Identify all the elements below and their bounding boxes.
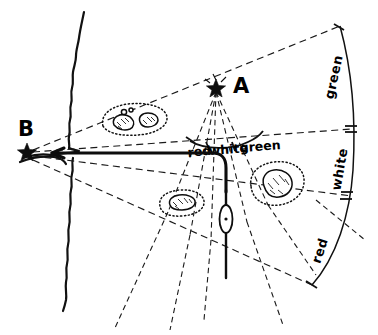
arc-end-cap-top: [334, 24, 344, 30]
islet-nw-rock-1: [121, 109, 126, 114]
station-a-label: A: [233, 74, 250, 98]
coastline-group: [20, 12, 84, 311]
bearing-b-to-green-top: [33, 26, 340, 150]
far-arc-labels: green white red: [309, 54, 351, 265]
bearing-extensions: [114, 200, 365, 330]
bearing-lines-from-a: [168, 92, 268, 240]
vessel-track: [52, 153, 226, 192]
ray-a-1: [213, 74, 216, 80]
chart-canvas: green white red red white green: [0, 0, 378, 335]
islet-nw-right: [139, 113, 158, 127]
station-b-label: B: [18, 117, 34, 141]
bearing-ext-center: [204, 240, 211, 320]
bearing-ext-right-1: [247, 222, 283, 325]
arc-label-green: green: [322, 54, 346, 101]
nautical-chart-figure: green white red red white green: [0, 0, 378, 335]
islet-group-east: [251, 162, 304, 206]
bearing-ext-left-2: [170, 235, 190, 330]
bearing-ext-right-2: [268, 205, 316, 275]
arc-label-red: red: [309, 236, 331, 265]
coastline-lower: [63, 158, 73, 311]
buoy-group: [220, 190, 233, 278]
islet-nw-rock-2: [129, 108, 133, 112]
station-a-group: A: [205, 74, 250, 98]
islet-group-northwest: [103, 103, 167, 135]
near-sector-labels: red white green: [187, 137, 281, 160]
buoy-center-dot: [224, 217, 227, 220]
sector-label-green: green: [239, 137, 281, 155]
ray-a-2: [221, 77, 226, 82]
bearing-ext-left-1: [114, 212, 168, 330]
arc-label-white: white: [328, 147, 350, 192]
coastline-upper: [69, 12, 84, 148]
islet-nw-left: [113, 115, 133, 130]
